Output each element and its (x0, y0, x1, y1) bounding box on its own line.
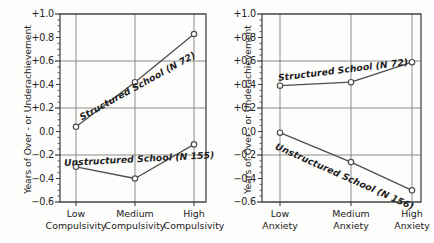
chart-panel-compulsivity: Years of Over - or Underachievement +1.0… (0, 0, 215, 243)
plot-area-right (214, 0, 429, 243)
plot-area-left (0, 0, 215, 243)
chart-panel-anxiety: Years of Over - or Underachievement +1.0… (214, 0, 429, 243)
